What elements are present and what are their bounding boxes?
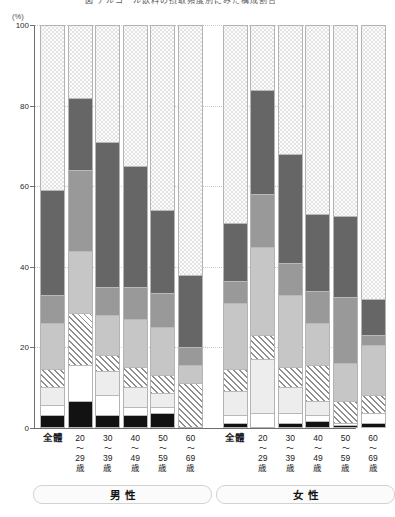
bar-segment-dotted (224, 26, 247, 223)
bar-segment-light (124, 319, 147, 367)
bar-segment-light (306, 323, 329, 365)
bar-segment-pale (279, 387, 302, 413)
bar-segment-mid (41, 295, 64, 323)
x-axis-label-line: 60 (356, 433, 390, 444)
bar-segment-black (124, 415, 147, 427)
bar-segment-dark (306, 214, 329, 290)
bar-segment-black (334, 425, 357, 427)
bar-segment-dark (124, 166, 147, 286)
bar-2[interactable] (95, 25, 120, 428)
bar-segment-light (251, 247, 274, 335)
bar-segment-white (251, 413, 274, 427)
bar-7[interactable] (250, 25, 275, 428)
bar-6[interactable] (223, 25, 248, 428)
bar-segment-dotted (96, 26, 119, 142)
y-gridline-0 (34, 428, 356, 429)
y-tick-label-60: 60 (20, 182, 29, 191)
bar-segment-hatch (279, 367, 302, 387)
bar-segment-pale (151, 393, 174, 407)
bar-segment-dotted (41, 26, 64, 190)
bar-segment-pale (41, 387, 64, 405)
bar-segment-hatch (334, 401, 357, 423)
bar-segment-hatch (224, 369, 247, 391)
x-axis-label-line: 69 (174, 453, 208, 464)
bar-segment-mid (179, 347, 202, 365)
y-axis-line (34, 25, 35, 428)
bar-segment-light (69, 251, 92, 313)
bar-segment-mid (279, 263, 302, 295)
bar-4[interactable] (150, 25, 175, 428)
bar-segment-white (41, 405, 64, 415)
x-axis-label-line: 歳 (174, 463, 208, 474)
bar-segment-dotted (334, 26, 357, 216)
bar-segment-light (224, 303, 247, 369)
bar-10[interactable] (333, 25, 358, 428)
bar-segment-black (96, 415, 119, 427)
bar-8[interactable] (278, 25, 303, 428)
bar-segment-hatch (251, 335, 274, 359)
group-label-0: 男性 (33, 485, 212, 504)
bar-segment-hatch (362, 395, 385, 413)
bar-segment-black (151, 413, 174, 427)
bar-segment-mid (96, 287, 119, 315)
bar-segment-hatch (306, 365, 329, 401)
bar-segment-light (151, 327, 174, 375)
bar-segment-dark (179, 275, 202, 347)
x-axis-label-5: 60〜69歳 (174, 433, 208, 474)
bar-segment-mid (224, 281, 247, 303)
bar-segment-black (279, 423, 302, 427)
bar-segment-hatch (41, 369, 64, 387)
bar-segment-white (96, 395, 119, 415)
bar-segment-dotted (306, 26, 329, 214)
x-axis-label-line: 歳 (356, 463, 390, 474)
bar-segment-dark (279, 154, 302, 262)
y-tick-label-40: 40 (20, 262, 29, 271)
y-tick-mark-60 (30, 186, 35, 187)
bar-segment-dark (251, 90, 274, 194)
bar-segment-hatch (151, 375, 174, 393)
bar-segment-black (362, 423, 385, 427)
bar-0[interactable] (40, 25, 65, 428)
bar-segment-dotted (69, 26, 92, 98)
bar-segment-black (306, 421, 329, 427)
bar-segment-light (334, 363, 357, 401)
bar-1[interactable] (68, 25, 93, 428)
x-axis-label-line: 〜 (174, 444, 208, 453)
bar-segment-dotted (179, 26, 202, 275)
bar-segment-mid (362, 335, 385, 345)
y-tick-label-0: 0 (25, 424, 29, 433)
bar-segment-mid (69, 170, 92, 250)
bar-5[interactable] (178, 25, 203, 428)
bar-11[interactable] (361, 25, 386, 428)
bar-segment-dotted (124, 26, 147, 166)
bar-segment-hatch (69, 313, 92, 365)
bar-segment-hatch (124, 367, 147, 387)
bar-segment-dotted (362, 26, 385, 299)
bar-segment-dotted (151, 26, 174, 210)
y-tick-mark-40 (30, 267, 35, 268)
bar-segment-hatch (179, 383, 202, 427)
bar-segment-dark (334, 216, 357, 296)
y-tick-label-20: 20 (20, 343, 29, 352)
bar-segment-light (179, 365, 202, 383)
bar-segment-dark (41, 190, 64, 294)
bar-9[interactable] (305, 25, 330, 428)
bar-segment-light (362, 345, 385, 395)
bar-segment-dark (69, 98, 92, 170)
bar-segment-hatch (96, 355, 119, 371)
plot-area: (%) 020406080100 全體20〜29歳30〜39歳40〜49歳50〜… (36, 25, 356, 428)
y-tick-mark-0 (30, 428, 35, 429)
bar-3[interactable] (123, 25, 148, 428)
bar-segment-light (96, 315, 119, 355)
x-axis-label-line: 〜 (356, 444, 390, 453)
bar-segment-light (279, 295, 302, 367)
bar-segment-white (69, 365, 92, 401)
bar-segment-pale (224, 391, 247, 415)
bar-segment-white (124, 407, 147, 415)
bar-segment-light (41, 323, 64, 369)
bar-segment-black (41, 415, 64, 427)
bar-segment-pale (251, 359, 274, 413)
bar-segment-dark (362, 299, 385, 335)
y-tick-label-80: 80 (20, 101, 29, 110)
bar-segment-black (69, 401, 92, 427)
